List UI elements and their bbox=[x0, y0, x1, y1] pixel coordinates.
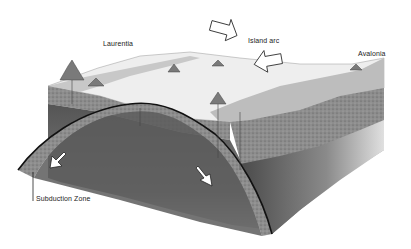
label-avalonia: Avalonia bbox=[358, 50, 386, 57]
plate-tectonics-block-diagram: Laurentia Island arc Avalonia Subduction… bbox=[0, 0, 411, 249]
label-island-arc: Island arc bbox=[248, 37, 279, 44]
block-diagram-illustration bbox=[0, 0, 411, 249]
label-laurentia: Laurentia bbox=[103, 40, 133, 47]
label-subduction-zone: Subduction Zone bbox=[36, 195, 90, 202]
convergence-arrow-top-icon bbox=[208, 15, 241, 43]
